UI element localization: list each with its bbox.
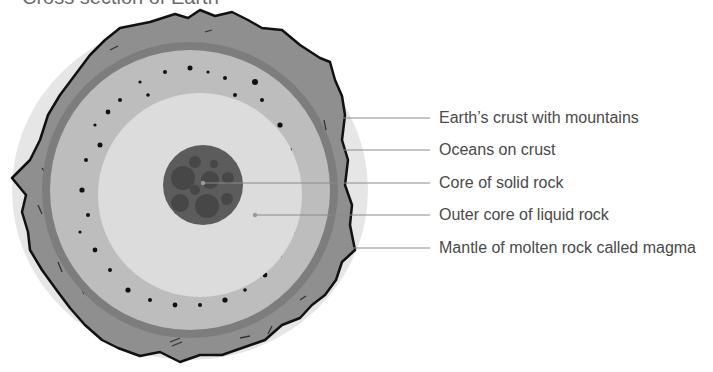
label-mantle: Mantle of molten rock called magma	[439, 239, 696, 257]
label-inner-core: Core of solid rock	[439, 174, 564, 192]
label-oceans: Oceans on crust	[439, 141, 556, 159]
label-outer-core: Outer core of liquid rock	[439, 206, 609, 224]
label-crust: Earth’s crust with mountains	[439, 109, 639, 127]
earth-cross-section	[0, 0, 713, 372]
